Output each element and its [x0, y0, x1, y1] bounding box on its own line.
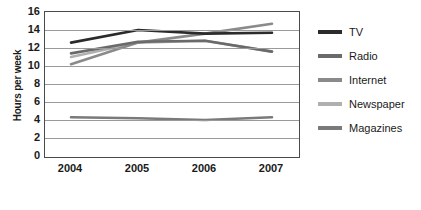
- y-axis-tick-label: 8: [14, 77, 40, 89]
- gridline: [45, 30, 299, 31]
- line-chart: Hours per week 1614121086420 20042005200…: [0, 0, 421, 210]
- gridline: [45, 138, 299, 139]
- legend-item-label: Magazines: [349, 122, 402, 134]
- legend-item-newspaper[interactable]: Newspaper: [318, 92, 421, 116]
- legend-swatch-icon: [318, 54, 342, 58]
- y-axis-tick-label: 10: [14, 59, 40, 71]
- gridline: [45, 48, 299, 49]
- legend-item-magazines[interactable]: Magazines: [318, 116, 421, 140]
- gridline: [45, 102, 299, 103]
- gridline: [45, 84, 299, 85]
- y-axis-tick-label: 14: [14, 23, 40, 35]
- y-axis-tick-label: 12: [14, 41, 40, 53]
- gridline: [45, 66, 299, 67]
- gridline: [45, 120, 299, 121]
- x-axis-tick-label: 2007: [259, 162, 283, 174]
- y-axis-tick-label: 2: [14, 131, 40, 143]
- legend-swatch-icon: [318, 30, 342, 34]
- legend-item-radio[interactable]: Radio: [318, 44, 421, 68]
- x-axis-tick-label: 2004: [58, 162, 82, 174]
- legend-item-label: Radio: [349, 50, 378, 62]
- legend-item-internet[interactable]: Internet: [318, 68, 421, 92]
- y-axis-tick-label: 0: [14, 149, 40, 161]
- legend-swatch-icon: [318, 102, 342, 106]
- legend-swatch-icon: [318, 126, 342, 130]
- legend-swatch-icon: [318, 78, 342, 82]
- y-axis-tick-label: 6: [14, 95, 40, 107]
- y-axis-tick-label: 4: [14, 113, 40, 125]
- chart-legend: TVRadioInternetNewspaperMagazines: [318, 20, 421, 140]
- y-axis-ticks: 1614121086420: [12, 0, 40, 210]
- legend-item-label: TV: [349, 26, 363, 38]
- x-axis-tick-label: 2006: [192, 162, 216, 174]
- plot-area: [44, 11, 300, 158]
- legend-item-label: Internet: [349, 74, 386, 86]
- legend-item-label: Newspaper: [349, 98, 405, 110]
- y-axis-tick-label: 16: [14, 5, 40, 17]
- legend-item-tv[interactable]: TV: [318, 20, 421, 44]
- x-axis-tick-label: 2005: [125, 162, 149, 174]
